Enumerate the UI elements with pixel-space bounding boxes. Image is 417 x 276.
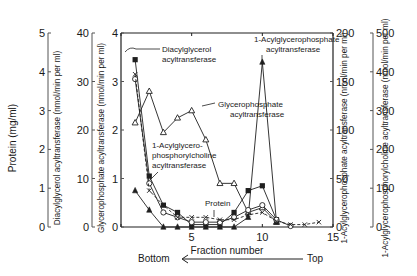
- tick-label: 10: [77, 173, 89, 185]
- tick-label: 4: [39, 66, 45, 78]
- axis-dag: 010203040Diacylglycerol acyltransferase …: [53, 27, 95, 233]
- tick-label: 1: [112, 173, 118, 185]
- bottom-label: Bottom: [138, 253, 170, 264]
- tick-label: 1: [39, 182, 45, 194]
- axis-title: Diacylglycerol acyltransferase (nmol/min…: [53, 51, 62, 226]
- annotation-label: Protein: [205, 199, 230, 208]
- annotations: DiacylglycerolacyltransferaseGlycerophos…: [125, 35, 340, 217]
- tick-label: 40: [77, 27, 89, 39]
- tick-label: 5: [39, 27, 45, 39]
- annotation-label: Glycerophosphate: [218, 100, 283, 109]
- annotation-label: acyltransferase: [162, 55, 217, 64]
- tick-label: 3: [112, 76, 118, 88]
- annotation-label: acyltransferase: [266, 45, 321, 54]
- tick-label: 0: [83, 221, 89, 233]
- axis-title: 1-Acylglycerophosphate acyltransferase (…: [340, 32, 349, 243]
- multi-axis-line-chart: 012345Protein (mg/ml)010203040Diacylglyc…: [0, 0, 417, 276]
- axis-title: Glycerophosphate acyltransferase (nmol/m…: [97, 43, 106, 233]
- annotation-label: 1-Acylglycero-: [152, 141, 203, 150]
- tick-label: 4: [112, 27, 118, 39]
- axis-title: 1-Acylglycerophosphorylcholine acyltrans…: [381, 18, 390, 257]
- x-axis-title: Fraction number: [191, 245, 264, 256]
- annotation-label: Diacylglycerol: [162, 45, 212, 54]
- x-tick-label: 10: [256, 231, 268, 243]
- tick-label: 3: [39, 105, 45, 117]
- tick-label: 2: [112, 124, 118, 136]
- tick-label: 0: [39, 221, 45, 233]
- axis-lpa: 0501001502001-Acylglycerophosphate acylt…: [330, 27, 354, 244]
- x-tick-label: 5: [189, 231, 195, 243]
- top-label: Top: [307, 253, 324, 264]
- axis-protein: 012345Protein (mg/ml): [7, 27, 51, 233]
- axis-title: Protein (mg/ml): [7, 104, 18, 172]
- axis-lpc: 01002003004005001-Acylglycerophosphorylc…: [370, 18, 394, 257]
- tick-label: 20: [77, 124, 89, 136]
- tick-label: 2: [39, 143, 45, 155]
- tick-label: 30: [77, 76, 89, 88]
- x-tick-label: 15: [327, 231, 339, 243]
- annotation-label: 1-Acylglycerophosphate: [254, 35, 340, 44]
- tick-label: 0: [112, 221, 118, 233]
- annotation-label: acyltransferase: [230, 110, 285, 119]
- axis-gp: 01234Glycerophosphate acyltransferase (n…: [97, 27, 124, 233]
- annotation-label: acyltransferase: [152, 161, 207, 170]
- plot-frame: [121, 33, 333, 227]
- annotation-label: phosphorylcholine: [152, 151, 217, 160]
